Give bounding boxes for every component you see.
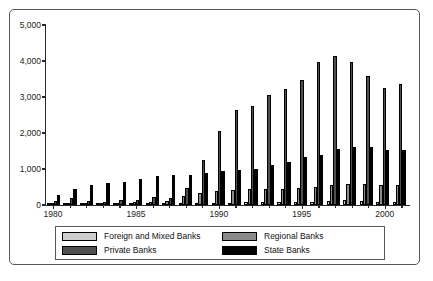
- bar: [90, 185, 93, 205]
- x-axis-tick-label: 1990: [209, 210, 228, 219]
- x-axis-minor-tick-mark: [269, 205, 270, 208]
- x-axis-minor-tick-mark: [352, 205, 353, 208]
- legend-swatch: [62, 232, 97, 241]
- year-group: [96, 26, 112, 205]
- chart-figure: 01,0002,0003,0004,0005,000 1980198519901…: [0, 0, 433, 281]
- bar: [238, 170, 241, 205]
- x-axis-minor-tick-mark: [219, 205, 220, 208]
- year-group: [113, 26, 129, 205]
- bar: [337, 149, 340, 205]
- bar: [254, 169, 257, 205]
- year-group: [294, 26, 310, 205]
- x-axis-minor-tick-mark: [401, 205, 402, 208]
- legend-label: Regional Banks: [264, 232, 324, 241]
- bar: [106, 183, 109, 205]
- legend-swatch: [222, 246, 257, 255]
- year-group: [212, 26, 228, 205]
- year-group: [343, 26, 359, 205]
- year-group: [146, 26, 162, 205]
- year-group: [162, 26, 178, 205]
- year-group: [179, 26, 195, 205]
- x-axis-minor-tick-mark: [119, 205, 120, 208]
- x-axis-tick-label: 1985: [126, 210, 145, 219]
- legend-label: State Banks: [264, 246, 310, 255]
- x-axis-minor-tick-mark: [202, 205, 203, 208]
- year-group: [244, 26, 260, 205]
- year-group: [47, 26, 63, 205]
- x-axis-minor-tick-mark: [318, 205, 319, 208]
- x-axis-minor-tick-mark: [186, 205, 187, 208]
- year-group: [277, 26, 293, 205]
- bar: [139, 179, 142, 205]
- x-axis-tick-label: 2000: [375, 210, 394, 219]
- legend-swatch: [62, 246, 97, 255]
- chart-legend: Foreign and Mixed BanksRegional BanksPri…: [55, 226, 385, 260]
- x-axis-minor-tick-mark: [368, 205, 369, 208]
- x-axis-minor-tick-mark: [153, 205, 154, 208]
- bar: [156, 176, 159, 205]
- bar: [57, 195, 60, 205]
- year-group: [228, 26, 244, 205]
- legend-label: Private Banks: [104, 246, 156, 255]
- legend-entry[interactable]: Foreign and Mixed Banks: [62, 230, 218, 243]
- bar: [402, 150, 405, 205]
- bar: [221, 171, 224, 205]
- year-group: [376, 26, 392, 205]
- x-axis-minor-tick-mark: [103, 205, 104, 208]
- bar: [304, 157, 307, 205]
- bar: [370, 147, 373, 205]
- bar: [205, 173, 208, 205]
- x-axis-minor-tick-mark: [169, 205, 170, 208]
- x-axis-minor-tick-mark: [335, 205, 336, 208]
- legend-entry[interactable]: State Banks: [222, 244, 378, 257]
- bar: [320, 155, 323, 205]
- bar: [271, 165, 274, 205]
- x-axis-minor-tick-mark: [302, 205, 303, 208]
- legend-entry[interactable]: Regional Banks: [222, 230, 378, 243]
- x-axis-tick-label: 1980: [43, 210, 62, 219]
- plot-area: 01,0002,0003,0004,0005,000 1980198519901…: [45, 26, 410, 206]
- year-group: [129, 26, 145, 205]
- x-axis-minor-tick-mark: [70, 205, 71, 208]
- x-axis-minor-tick-mark: [136, 205, 137, 208]
- bar: [189, 175, 192, 205]
- bar: [353, 147, 356, 205]
- x-axis-tick-label: 1995: [292, 210, 311, 219]
- bar: [386, 150, 389, 205]
- x-axis-minor-tick-mark: [53, 205, 54, 208]
- legend-label: Foreign and Mixed Banks: [104, 232, 200, 241]
- year-group: [393, 26, 409, 205]
- bar: [123, 182, 126, 205]
- legend-entry[interactable]: Private Banks: [62, 244, 218, 257]
- year-group: [310, 26, 326, 205]
- year-group: [261, 26, 277, 205]
- year-group: [195, 26, 211, 205]
- bar: [172, 175, 175, 205]
- x-axis-minor-tick-mark: [235, 205, 236, 208]
- year-group: [360, 26, 376, 205]
- x-axis-minor-tick-mark: [285, 205, 286, 208]
- year-group: [80, 26, 96, 205]
- bar: [287, 162, 290, 205]
- bar-series-container: [46, 26, 410, 205]
- year-group: [327, 26, 343, 205]
- x-axis-minor-tick-mark: [252, 205, 253, 208]
- x-axis-minor-tick-mark: [86, 205, 87, 208]
- bar: [73, 189, 76, 205]
- x-axis-minor-tick-mark: [385, 205, 386, 208]
- legend-swatch: [222, 232, 257, 241]
- year-group: [63, 26, 79, 205]
